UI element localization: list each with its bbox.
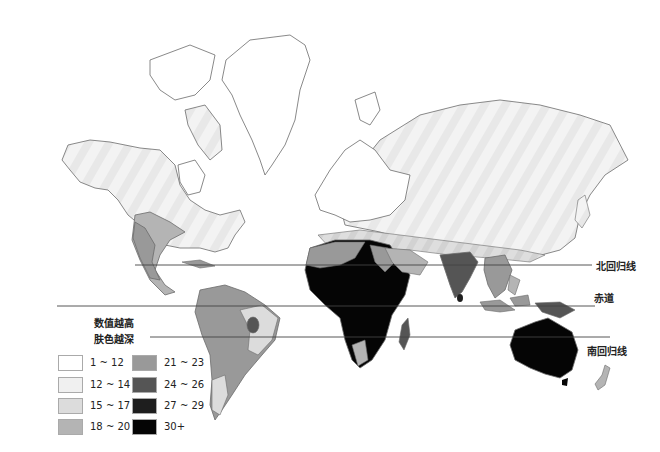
legend-swatch <box>58 355 83 371</box>
legend-item: 12 ~ 14 <box>58 376 130 393</box>
legend-label: 12 ~ 14 <box>90 379 130 390</box>
madagascar <box>399 318 410 350</box>
legend-swatch <box>58 419 83 435</box>
legend-label: 1 ~ 12 <box>90 357 124 368</box>
legend-label: 15 ~ 17 <box>90 400 130 411</box>
legend-label: 30+ <box>164 421 185 432</box>
legend-item: 21 ~ 23 <box>132 354 204 371</box>
new-zealand <box>595 365 610 390</box>
legend-swatch <box>132 398 157 414</box>
legend-item: 24 ~ 26 <box>132 376 204 393</box>
legend-swatch <box>58 377 83 393</box>
baffin-island <box>185 105 222 160</box>
greenland <box>222 35 310 175</box>
legend-swatch <box>132 355 157 371</box>
legend-swatch <box>132 419 157 435</box>
legend-title-line1: 数值越高 <box>94 315 134 330</box>
legend-label: 18 ~ 20 <box>90 421 130 432</box>
legend-item: 1 ~ 12 <box>58 354 124 371</box>
new-guinea <box>535 302 575 318</box>
legend-label: 27 ~ 29 <box>164 400 204 411</box>
legend-title-line2: 肤色越深 <box>94 331 134 346</box>
legend-item: 15 ~ 17 <box>58 397 130 414</box>
south-america <box>195 285 280 420</box>
legend-item: 27 ~ 29 <box>132 397 204 414</box>
legend-swatch <box>58 398 83 414</box>
arctic-islands <box>150 45 215 100</box>
tropic-of-cancer-label: 北回归线 <box>596 258 636 273</box>
equator-label: 赤道 <box>594 290 614 305</box>
legend-item: 18 ~ 20 <box>58 418 130 435</box>
tropic-of-capricorn-label: 南回归线 <box>587 343 627 358</box>
legend-label: 24 ~ 26 <box>164 379 204 390</box>
legend-swatch <box>132 377 157 393</box>
india <box>440 252 478 298</box>
legend-item: 30+ <box>132 418 185 435</box>
legend-label: 21 ~ 23 <box>164 357 204 368</box>
southeast-asia <box>484 255 512 298</box>
australia <box>510 318 578 378</box>
